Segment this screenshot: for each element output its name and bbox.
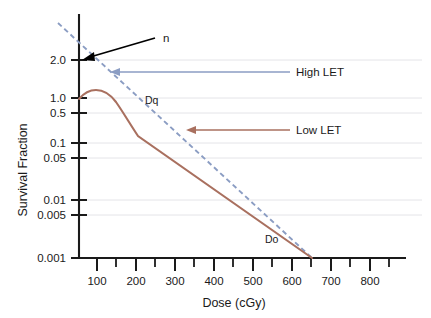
chart-canvas: 2.0 1.0 0.5 0.1 0.05 0.01 0.005 0.001 10…: [0, 0, 431, 318]
y-axis-title: Survival Fraction: [16, 123, 30, 216]
y-tick-label-0.005: 0.005: [37, 209, 66, 221]
annotation-label-do: Do: [265, 233, 279, 245]
annotation-label-n: n: [163, 32, 169, 44]
x-tick-label-400: 400: [204, 275, 223, 287]
y-tick-label-2.0: 2.0: [50, 54, 66, 66]
annotation-label-low-let: Low LET: [296, 124, 341, 136]
x-tick-label-100: 100: [87, 275, 106, 287]
y-tick-label-0.1: 0.1: [50, 137, 66, 149]
y-tick-label-1.0: 1.0: [50, 92, 66, 104]
x-tick-label-800: 800: [360, 275, 379, 287]
y-tick-label-0.01: 0.01: [44, 194, 66, 206]
x-tick-label-700: 700: [321, 275, 340, 287]
annotation-label-high-let: High LET: [296, 66, 344, 78]
x-tick-label-500: 500: [243, 275, 262, 287]
y-tick-label-0.001: 0.001: [37, 252, 66, 264]
x-tick-label-600: 600: [282, 275, 301, 287]
y-tick-label-0.05: 0.05: [44, 152, 66, 164]
x-tick-label-200: 200: [126, 275, 145, 287]
survival-curve-chart: 2.0 1.0 0.5 0.1 0.05 0.01 0.005 0.001 10…: [0, 0, 431, 318]
x-tick-label-300: 300: [165, 275, 184, 287]
annotation-label-dq: Dq: [145, 94, 159, 106]
y-tick-label-0.5: 0.5: [50, 107, 66, 119]
x-axis-title: Dose (cGy): [202, 296, 265, 310]
